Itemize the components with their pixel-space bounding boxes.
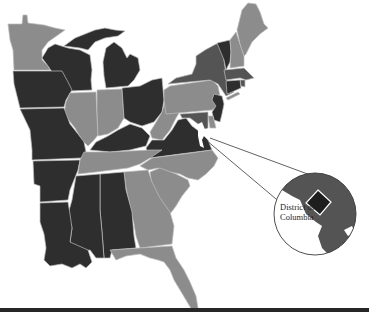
state-massachusetts[interactable] [224, 68, 254, 80]
callout-line-top [210, 138, 313, 176]
state-maine[interactable] [237, 3, 268, 56]
inset-label-line2: Columbia [280, 212, 326, 222]
inset-label: District of Columbia [280, 202, 326, 222]
state-michigan-lower[interactable] [103, 42, 140, 88]
callout-line-bottom [206, 140, 282, 204]
eastern-us-map [0, 0, 369, 312]
bottom-divider-bar [0, 308, 369, 312]
state-pennsylvania[interactable] [164, 80, 220, 114]
state-iowa[interactable] [13, 71, 72, 108]
state-florida[interactable] [110, 246, 198, 310]
inset-label-line1: District of [280, 202, 326, 212]
